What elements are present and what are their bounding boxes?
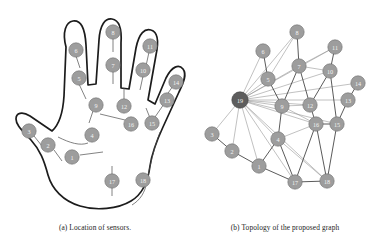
sensor-node-9[interactable]: 9 xyxy=(89,98,103,112)
sensor-node-1[interactable]: 1 xyxy=(65,150,79,164)
sensor-node-6[interactable]: 6 xyxy=(69,43,83,57)
graph-node-14[interactable]: 14 xyxy=(351,76,365,90)
hand-diagram-svg: 1 2 3 4 5 xyxy=(0,0,190,244)
panel-hand-sensor-locations: 1 2 3 4 5 xyxy=(0,0,190,244)
sensor-node-11[interactable]: 11 xyxy=(143,39,157,53)
graph-node-4[interactable]: 4 xyxy=(271,132,285,146)
graph-edge-19-10 xyxy=(240,71,330,100)
graph-node-1[interactable]: 1 xyxy=(252,159,266,173)
sensor-node-3[interactable]: 3 xyxy=(22,124,36,138)
sensor-node-13[interactable]: 13 xyxy=(160,93,174,107)
leader-line-1 xyxy=(80,152,103,155)
sensor-node-8[interactable]: 8 xyxy=(106,25,120,39)
graph-node-group: 19123456789101112131415161718 xyxy=(205,25,365,189)
graph-edge-16-17 xyxy=(295,124,316,182)
graph-node-13[interactable]: 13 xyxy=(341,93,355,107)
graph-node-10[interactable]: 10 xyxy=(323,64,337,78)
sensor-node-7[interactable]: 7 xyxy=(106,58,120,72)
leader-line-10 xyxy=(140,76,143,90)
sensor-node-group: 1 2 3 4 5 xyxy=(22,25,183,188)
graph-topology-svg: 19123456789101112131415161718 xyxy=(190,0,380,244)
panel-graph-topology: 19123456789101112131415161718 (b) Topolo… xyxy=(190,0,380,244)
sensor-node-14[interactable]: 14 xyxy=(169,75,183,89)
graph-node-9[interactable]: 9 xyxy=(275,99,289,113)
graph-node-18[interactable]: 18 xyxy=(320,174,334,188)
graph-edge-5-8 xyxy=(268,32,297,79)
figure-root: 1 2 3 4 5 xyxy=(0,0,380,244)
sensor-node-2[interactable]: 2 xyxy=(41,138,55,152)
leader-line-2 xyxy=(54,150,62,161)
graph-node-16[interactable]: 16 xyxy=(309,117,323,131)
graph-edge-10-15 xyxy=(330,71,337,124)
graph-node-11[interactable]: 11 xyxy=(328,40,342,54)
sensor-node-12[interactable]: 12 xyxy=(117,99,131,113)
graph-node-15[interactable]: 15 xyxy=(330,117,344,131)
leader-line-16 xyxy=(100,114,125,120)
hand-crease-thumb xyxy=(58,137,88,144)
sensor-node-15[interactable]: 15 xyxy=(145,116,159,130)
graph-node-8[interactable]: 8 xyxy=(290,25,304,39)
sensor-node-10[interactable]: 10 xyxy=(136,63,150,77)
graph-node-17[interactable]: 17 xyxy=(288,175,302,189)
panel-a-caption: (a) Location of sensors. xyxy=(0,223,190,232)
leader-line-9 xyxy=(89,111,93,123)
sensor-node-17[interactable]: 17 xyxy=(105,174,119,188)
sensor-node-18[interactable]: 18 xyxy=(136,173,150,187)
leader-line-6 xyxy=(76,56,80,68)
sensor-node-5[interactable]: 5 xyxy=(72,71,86,85)
graph-node-7[interactable]: 7 xyxy=(292,59,306,73)
sensor-node-4[interactable]: 4 xyxy=(85,128,99,142)
graph-edge-19-14 xyxy=(240,83,358,100)
sensor-node-16[interactable]: 16 xyxy=(124,117,138,131)
graph-node-5[interactable]: 5 xyxy=(261,72,275,86)
graph-node-2[interactable]: 2 xyxy=(225,144,239,158)
graph-node-3[interactable]: 3 xyxy=(205,127,219,141)
graph-node-19[interactable]: 19 xyxy=(232,92,248,108)
graph-node-6[interactable]: 6 xyxy=(256,44,270,58)
panel-b-caption: (b) Topology of the proposed graph xyxy=(190,223,380,232)
leader-line-5 xyxy=(79,84,86,99)
graph-edge-15-18 xyxy=(327,124,337,181)
graph-node-12[interactable]: 12 xyxy=(303,98,317,112)
graph-edge-4-18 xyxy=(278,139,327,181)
